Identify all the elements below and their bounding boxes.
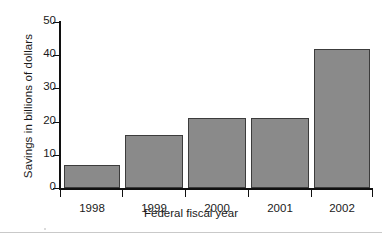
bar-1999 <box>125 135 183 188</box>
scan-artifact-dot <box>44 228 46 230</box>
x-tick-mark <box>311 189 312 197</box>
y-tick-label: 50 <box>43 14 56 26</box>
y-tick-label: 10 <box>43 147 56 159</box>
y-axis-title: Savings in billions of dollars <box>22 16 34 196</box>
bar-2001 <box>251 118 309 188</box>
x-axis-spine <box>59 188 373 190</box>
bar-2002 <box>314 49 370 188</box>
y-axis-spine <box>59 21 61 189</box>
y-tick-label: 30 <box>43 80 56 92</box>
x-tick-mark <box>248 189 249 197</box>
x-tick-mark <box>185 189 186 197</box>
bar-2000 <box>188 118 246 188</box>
y-tick-label: 0 <box>50 180 56 192</box>
x-tick-mark <box>372 189 373 197</box>
bar-1998 <box>64 165 120 188</box>
x-axis-title: Federal fiscal year <box>0 207 382 219</box>
x-tick-mark <box>60 189 61 197</box>
x-tick-mark <box>122 189 123 197</box>
y-tick-label: 40 <box>43 47 56 59</box>
y-tick-label: 20 <box>43 114 56 126</box>
plot-area: 0 10 20 30 40 50 <box>60 22 372 188</box>
bar-chart-figure: Savings in billions of dollars 0 10 20 3… <box>0 0 382 242</box>
bottom-divider <box>0 232 382 233</box>
